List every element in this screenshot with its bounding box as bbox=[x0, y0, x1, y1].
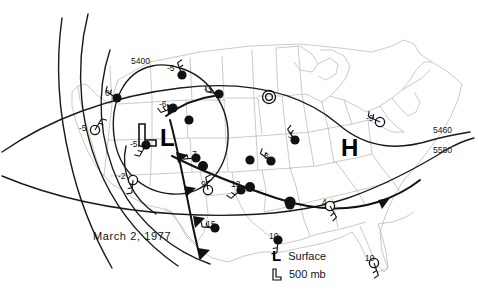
contour-label-5460: 5460 bbox=[433, 126, 452, 135]
legend: L Surface 500 mb bbox=[272, 247, 326, 283]
weather-map: 0-5-3-6-5-5-2-93379121510410 L H 5400 54… bbox=[0, 0, 478, 305]
legend-row-500mb: 500 mb bbox=[272, 264, 326, 283]
legend-surface-low-symbol: L bbox=[272, 247, 281, 264]
contour-label-5580: 5580 bbox=[433, 146, 452, 155]
legend-row-surface: L Surface bbox=[272, 247, 326, 264]
legend-upper-low-symbol bbox=[272, 267, 282, 280]
legend-upper-label: 500 mb bbox=[289, 268, 326, 280]
map-date-label: March 2, 1977 bbox=[93, 231, 171, 242]
upper-center-ring-marker bbox=[0, 0, 478, 305]
legend-surface-label: Surface bbox=[288, 250, 326, 262]
contour-label-5400: 5400 bbox=[131, 57, 150, 66]
